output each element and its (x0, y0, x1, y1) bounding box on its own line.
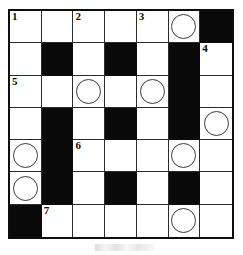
grid-cell-open[interactable] (169, 11, 201, 43)
grid-cell-open[interactable] (42, 76, 74, 108)
circled-letter-marker (76, 79, 101, 104)
grid-cell-open[interactable] (10, 108, 42, 140)
grid-cell-open[interactable] (10, 43, 42, 75)
grid-cell-open[interactable] (137, 205, 169, 237)
grid-cell-open[interactable] (137, 43, 169, 75)
grid-cell-open[interactable] (200, 205, 232, 237)
scan-artifact (95, 244, 155, 251)
grid-cell-open[interactable] (73, 108, 105, 140)
grid-cell-open[interactable]: 5 (10, 76, 42, 108)
grid-cell-open[interactable]: 4 (200, 43, 232, 75)
grid-cell-block (42, 140, 74, 172)
grid-cell-block (42, 172, 74, 204)
grid-cell-open[interactable]: 2 (73, 11, 105, 43)
grid-cell-open[interactable] (137, 172, 169, 204)
grid-cell-open[interactable]: 7 (42, 205, 74, 237)
clue-number: 1 (12, 11, 17, 22)
grid-cell-open[interactable] (137, 140, 169, 172)
grid-cell-block (10, 205, 42, 237)
grid-cell-open[interactable] (200, 108, 232, 140)
grid-cell-open[interactable]: 3 (137, 11, 169, 43)
grid-cell-open[interactable] (73, 76, 105, 108)
circled-letter-marker (171, 143, 196, 168)
grid-cell-open[interactable]: 1 (10, 11, 42, 43)
grid-cell-block (169, 43, 201, 75)
grid-cell-block (169, 76, 201, 108)
grid-cell-open[interactable] (73, 205, 105, 237)
grid-cell-open[interactable] (169, 140, 201, 172)
grid-cell-open[interactable] (200, 76, 232, 108)
grid-cell-open[interactable] (73, 43, 105, 75)
grid-cell-open[interactable] (169, 205, 201, 237)
clue-number: 4 (202, 43, 207, 54)
grid-cell-open[interactable] (105, 205, 137, 237)
grid-cell-block (42, 108, 74, 140)
circled-letter-marker (171, 14, 196, 39)
clue-number: 3 (139, 11, 144, 22)
grid-cell-open[interactable] (105, 11, 137, 43)
grid-cell-open[interactable] (10, 172, 42, 204)
circled-letter-marker (140, 79, 165, 104)
grid-cell-open[interactable] (10, 140, 42, 172)
grid-cell-open[interactable] (42, 11, 74, 43)
clue-number: 7 (44, 205, 49, 216)
grid-cell-open[interactable] (137, 108, 169, 140)
grid-cell-open[interactable] (200, 172, 232, 204)
circled-letter-marker (13, 176, 38, 201)
circled-letter-marker (204, 111, 229, 136)
grid-cell-block (200, 11, 232, 43)
grid-cell-block (169, 172, 201, 204)
grid-cell-open[interactable]: 6 (73, 140, 105, 172)
grid-cell-block (42, 43, 74, 75)
grid-cell-block (105, 43, 137, 75)
circled-letter-marker (171, 208, 196, 233)
grid-cell-open[interactable] (73, 172, 105, 204)
grid-cell-open[interactable] (137, 76, 169, 108)
grid-cell-open[interactable] (105, 76, 137, 108)
grid-cell-open[interactable] (200, 140, 232, 172)
clue-number: 5 (12, 76, 17, 87)
grid-cell-block (105, 108, 137, 140)
clue-number: 6 (75, 140, 80, 151)
grid-cell-block (169, 108, 201, 140)
clue-number: 2 (75, 11, 80, 22)
crossword-puzzle: 1234567 (0, 0, 243, 255)
grid-cell-open[interactable] (105, 140, 137, 172)
grid-cell-block (105, 172, 137, 204)
crossword-grid[interactable]: 1234567 (8, 9, 234, 239)
circled-letter-marker (13, 143, 38, 168)
